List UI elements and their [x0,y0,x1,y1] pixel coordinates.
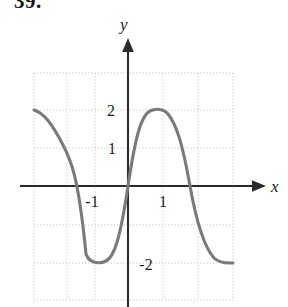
y-tick-label-1: 1 [108,140,116,157]
y-axis-label: y [118,15,128,34]
y-tick-label-minus-2: -2 [139,256,152,273]
x-axis-label: x [270,177,279,196]
y-tick-label-2: 2 [107,102,115,119]
coordinate-plane: x y 2 1 -2 -1 1 [0,0,288,307]
y-axis [122,38,134,307]
graph-figure: x y 2 1 -2 -1 1 [0,0,288,307]
x-tick-label-minus-1: -1 [85,193,98,210]
x-axis [20,180,266,192]
x-tick-label-1: 1 [159,193,167,210]
